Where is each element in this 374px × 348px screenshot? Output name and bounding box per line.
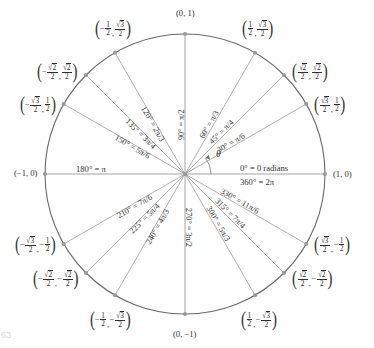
unit-circle-figure: (1, 0)(√32,12)(√22,√22)(12,√32)(0, 1)(−1… [0, 0, 374, 348]
vertex-dot-270deg [183, 312, 187, 316]
coord-label-120deg: (−12,√32) [95, 20, 131, 37]
vertex-dot-135deg [84, 73, 88, 77]
coord-label-330deg: (√32,−12) [314, 236, 350, 253]
angle-label-180deg-text: 180° = π [76, 165, 106, 174]
coord-label-180deg: (−1, 0) [14, 169, 37, 178]
vertex-dot-30deg [304, 102, 308, 106]
vertex-dot-90deg [183, 32, 187, 36]
coord-label-225deg: (−√22,−√22) [33, 270, 78, 287]
coord-label-60deg: (12,√32) [242, 20, 273, 37]
angle-label-360deg-text: 360° = 2π [240, 178, 274, 187]
coord-label-210deg: (−√32,−12) [15, 236, 56, 253]
vertex-dot-315deg [282, 271, 286, 275]
vertex-dot-150deg [62, 102, 66, 106]
angle-label-90deg: 90° = π/2 [178, 109, 186, 140]
coord-label-135deg: (−√22,√22) [37, 63, 78, 80]
vertex-dot-225deg [84, 271, 88, 275]
angle-label-0deg-text: 0° = 0 radians [240, 164, 288, 173]
coord-label-240deg: (−12,−√32) [90, 311, 131, 328]
coord-label-90deg: (0, 1) [176, 9, 195, 18]
vertex-dot-240deg [113, 293, 117, 297]
vertex-dot-330deg [304, 242, 308, 246]
vertex-dot-210deg [62, 242, 66, 246]
coord-label-315deg: (√22,−√22) [292, 270, 333, 287]
vertex-dot-180deg [43, 172, 47, 176]
theta-label: θ [216, 150, 221, 160]
unit-circle-svg [0, 0, 374, 348]
coord-label-45deg: (√22,√22) [292, 63, 328, 80]
origin-dot [183, 172, 187, 176]
vertex-dot-45deg [282, 73, 286, 77]
vertex-dot-60deg [253, 51, 257, 55]
coord-label-270deg: (0, −1) [173, 330, 196, 339]
coord-label-300deg: (12,−√32) [241, 311, 277, 328]
coord-label-0deg: (1, 0) [333, 170, 352, 179]
vertex-dot-300deg [253, 293, 257, 297]
coord-label-150deg: (−√32,12) [20, 96, 56, 113]
angle-label-270deg: 270° = 3π/2 [184, 208, 192, 247]
page-number: 63 [1, 330, 11, 340]
coord-label-30deg: (√32,12) [314, 96, 345, 113]
vertex-dot-0deg [323, 172, 327, 176]
vertex-dot-120deg [113, 51, 117, 55]
